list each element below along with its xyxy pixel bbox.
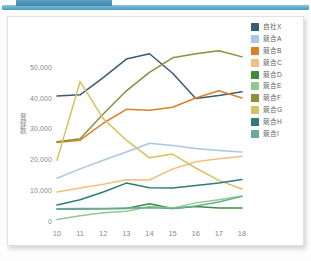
series-line xyxy=(57,156,242,192)
series-line xyxy=(57,82,242,189)
screenshot-root: 登録数 010,00020,00030,00040,00050,000 1011… xyxy=(0,0,311,261)
legend-label: 自社X xyxy=(263,23,281,31)
legend-label: 競合A xyxy=(263,35,281,43)
legend-item[interactable]: 競合B xyxy=(251,45,303,57)
legend-item[interactable]: 競合H xyxy=(251,116,303,128)
series-line xyxy=(57,143,242,178)
legend-item[interactable]: 競合C xyxy=(251,57,303,69)
legend-color-swatch xyxy=(251,47,259,55)
legend-item[interactable]: 競合D xyxy=(251,69,303,81)
legend-color-swatch xyxy=(251,23,259,31)
legend-item[interactable]: 競合I xyxy=(251,128,303,140)
legend-label: 競合B xyxy=(263,47,281,55)
legend-item[interactable]: 競合G xyxy=(251,104,303,116)
top-header-bar xyxy=(0,0,311,14)
header-bar-accent xyxy=(16,0,112,6)
legend-label: 競合E xyxy=(263,82,281,90)
legend-item[interactable]: 競合E xyxy=(251,80,303,92)
legend-label: 競合H xyxy=(263,118,282,126)
line-chart: 登録数 010,00020,00030,00040,00050,000 1011… xyxy=(8,17,305,247)
legend-color-swatch xyxy=(251,94,259,102)
chart-card: 登録数 010,00020,00030,00040,00050,000 1011… xyxy=(7,16,304,246)
legend-color-swatch xyxy=(251,118,259,126)
legend-color-swatch xyxy=(251,59,259,67)
legend-color-swatch xyxy=(251,82,259,90)
chart-legend: 自社X競合A競合B競合C競合D競合E競合F競合G競合H競合I xyxy=(251,21,303,140)
legend-item[interactable]: 競合A xyxy=(251,33,303,45)
legend-color-swatch xyxy=(251,71,259,79)
legend-label: 競合C xyxy=(263,59,282,67)
series-line xyxy=(57,179,242,205)
legend-label: 競合D xyxy=(263,71,282,79)
legend-item[interactable]: 競合F xyxy=(251,92,303,104)
legend-label: 競合I xyxy=(263,130,279,138)
legend-color-swatch xyxy=(251,35,259,43)
legend-color-swatch xyxy=(251,106,259,114)
legend-label: 競合G xyxy=(263,106,282,114)
legend-color-swatch xyxy=(251,130,259,138)
legend-item[interactable]: 自社X xyxy=(251,21,303,33)
legend-label: 競合F xyxy=(263,94,281,102)
